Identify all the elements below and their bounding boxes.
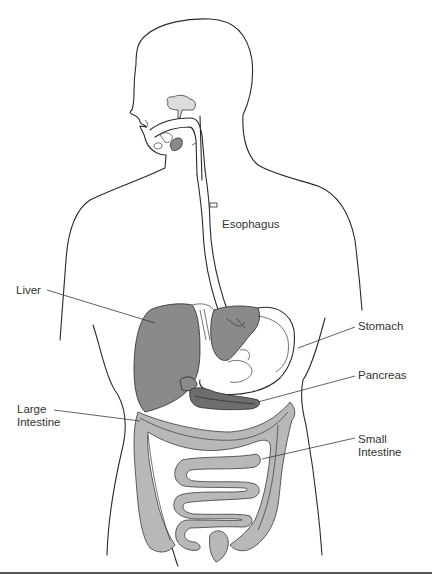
label-large-intestine: Large Intestine — [17, 403, 60, 429]
bottom-divider — [0, 572, 432, 574]
pancreas — [190, 388, 260, 410]
label-esophagus: Esophagus — [222, 218, 280, 231]
label-liver: Liver — [16, 284, 41, 297]
label-stomach: Stomach — [358, 320, 403, 333]
label-pancreas: Pancreas — [358, 369, 407, 382]
esophagus — [197, 170, 230, 320]
digestive-system-diagram: Esophagus Liver Stomach Pancreas Large I… — [0, 0, 432, 577]
head-internals — [145, 95, 205, 180]
label-small-intestine: Small Intestine — [358, 433, 401, 459]
